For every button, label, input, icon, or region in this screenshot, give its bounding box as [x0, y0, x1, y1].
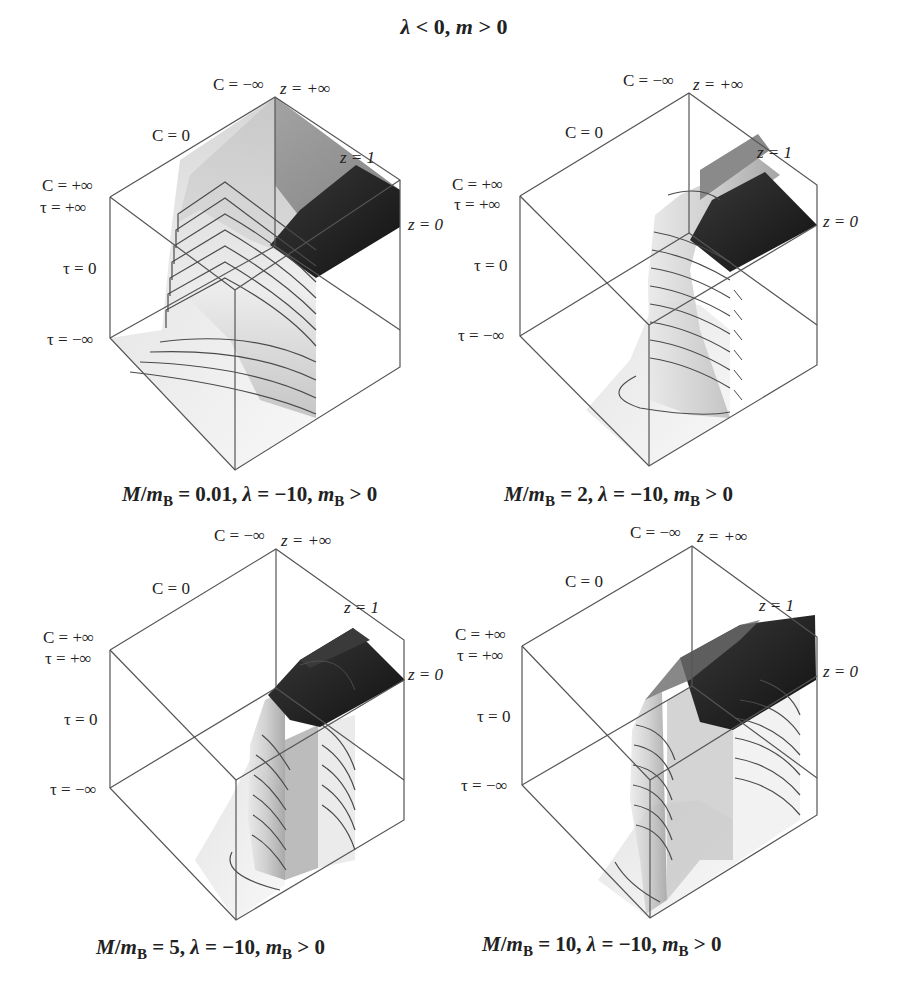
caption-M: M — [122, 482, 141, 506]
caption-sub: B — [163, 493, 173, 509]
label-z-one: z = 1 — [343, 598, 379, 617]
caption-lambda: λ — [190, 935, 199, 959]
surface-bottom-left — [195, 628, 405, 920]
caption-tail: > 0 — [700, 482, 733, 506]
label-c-neg-inf: C = −∞ — [213, 75, 264, 94]
label-c-zero: C = 0 — [565, 123, 603, 142]
label-tau-neg-inf: τ = −∞ — [458, 326, 505, 345]
label-z-zero: z = 0 — [407, 665, 444, 684]
caption-mb: m — [147, 482, 163, 506]
label-c-neg-inf: C = −∞ — [630, 523, 681, 542]
caption-top-right: M/mB = 2, λ = −10, mB > 0 — [504, 482, 733, 510]
caption-ratio: = 2, — [555, 482, 598, 506]
label-c-pos-inf: C = +∞ — [42, 176, 93, 195]
label-c-pos-inf: C = +∞ — [452, 175, 503, 194]
caption-sub2: B — [678, 943, 688, 959]
caption-bottom-left: M/mB = 5, λ = −10, mB > 0 — [96, 935, 325, 963]
caption-mb: m — [507, 932, 523, 956]
caption-sub: B — [137, 946, 147, 962]
caption-tail: > 0 — [344, 482, 377, 506]
caption-sub: B — [523, 943, 533, 959]
label-z-pos-inf: z = +∞ — [696, 527, 747, 546]
caption-tail: > 0 — [292, 935, 325, 959]
caption-mb2: m — [662, 932, 678, 956]
caption-lambda: λ — [587, 932, 596, 956]
caption-ratio: = 5, — [147, 935, 190, 959]
label-z-pos-inf: z = +∞ — [692, 75, 743, 94]
label-z-zero: z = 0 — [822, 662, 859, 681]
label-tau-neg-inf: τ = −∞ — [50, 780, 97, 799]
panel-bottom-right: C = −∞ z = +∞ C = 0 z = 1 C = +∞ τ = +∞ … — [455, 523, 859, 918]
label-c-neg-inf: C = −∞ — [623, 71, 674, 90]
caption-lambda: λ — [243, 482, 252, 506]
label-tau-pos-inf: τ = +∞ — [457, 646, 504, 665]
label-c-zero: C = 0 — [565, 572, 603, 591]
caption-mb2: m — [266, 935, 282, 959]
caption-bottom-right: M/mB = 10, λ = −10, mB > 0 — [482, 932, 721, 960]
caption-lambda-value: = −10, — [596, 932, 662, 956]
caption-sub2: B — [690, 493, 700, 509]
label-c-pos-inf: C = +∞ — [455, 625, 506, 644]
label-tau-pos-inf: τ = +∞ — [45, 649, 92, 668]
caption-ratio: = 10, — [533, 932, 587, 956]
caption-lambda-value: = −10, — [608, 482, 674, 506]
caption-sub2: B — [334, 493, 344, 509]
panel-bottom-left: C = −∞ z = +∞ C = 0 z = 1 C = +∞ τ = +∞ … — [43, 526, 444, 920]
label-c-neg-inf: C = −∞ — [214, 526, 265, 545]
caption-tail: > 0 — [688, 932, 721, 956]
label-tau-neg-inf: τ = −∞ — [461, 776, 508, 795]
label-c-zero: C = 0 — [152, 126, 190, 145]
label-tau-zero: τ = 0 — [474, 256, 507, 275]
label-tau-pos-inf: τ = +∞ — [454, 195, 501, 214]
label-c-zero: C = 0 — [152, 579, 190, 598]
surface-bottom-right — [598, 615, 816, 918]
caption-M: M — [96, 935, 115, 959]
caption-sub2: B — [282, 946, 292, 962]
panel-top-left: C = −∞ z = +∞ C = 0 z = 1 C = +∞ τ = +∞ … — [40, 75, 444, 470]
label-tau-zero: τ = 0 — [64, 710, 97, 729]
caption-lambda-value: = −10, — [200, 935, 266, 959]
label-z-pos-inf: z = +∞ — [280, 531, 331, 550]
caption-M: M — [504, 482, 523, 506]
caption-mb: m — [121, 935, 137, 959]
panel-top-right: C = −∞ z = +∞ C = 0 z = 1 C = +∞ τ = +∞ … — [452, 71, 859, 466]
caption-lambda: λ — [598, 482, 607, 506]
label-z-one: z = 1 — [339, 148, 375, 167]
caption-mb: m — [529, 482, 545, 506]
label-tau-zero: τ = 0 — [477, 707, 510, 726]
caption-mb2: m — [318, 482, 334, 506]
label-z-zero: z = 0 — [822, 212, 859, 231]
caption-sub: B — [545, 493, 555, 509]
caption-top-left: M/mB = 0.01, λ = −10, mB > 0 — [122, 482, 377, 510]
label-z-one: z = 1 — [756, 143, 792, 162]
caption-ratio: = 0.01, — [173, 482, 243, 506]
caption-mb2: m — [674, 482, 690, 506]
label-z-zero: z = 0 — [407, 215, 444, 234]
label-z-one: z = 1 — [758, 596, 794, 615]
label-tau-neg-inf: τ = −∞ — [47, 330, 94, 349]
caption-M: M — [482, 932, 501, 956]
label-tau-pos-inf: τ = +∞ — [40, 198, 87, 217]
label-c-pos-inf: C = +∞ — [43, 628, 94, 647]
label-tau-zero: τ = 0 — [63, 259, 96, 278]
caption-lambda-value: = −10, — [252, 482, 318, 506]
label-z-pos-inf: z = +∞ — [279, 79, 330, 98]
